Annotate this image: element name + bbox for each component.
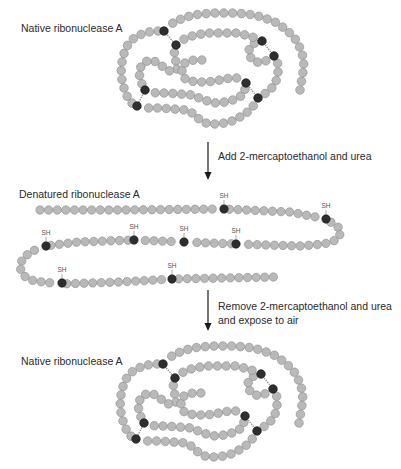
amino-acid-bead — [177, 90, 186, 99]
amino-acid-bead — [255, 12, 264, 21]
amino-acid-bead — [245, 386, 254, 395]
amino-acid-bead — [188, 410, 197, 419]
amino-acid-bead — [139, 206, 147, 214]
amino-acid-bead — [189, 77, 198, 86]
step1-label: Add 2-mercaptoethanol and urea — [218, 150, 372, 163]
amino-acid-bead — [117, 66, 126, 75]
amino-acid-bead — [106, 278, 114, 286]
amino-acid-bead — [209, 453, 218, 462]
amino-acid-bead — [211, 99, 220, 108]
amino-acid-bead — [159, 422, 168, 431]
amino-acid-bead — [198, 56, 207, 65]
amino-acid-bead — [285, 208, 293, 216]
amino-acid-bead — [120, 49, 129, 58]
amino-acid-bead — [219, 239, 227, 247]
amino-acid-bead — [137, 63, 146, 72]
amino-acid-bead — [274, 68, 283, 77]
amino-acid-bead — [228, 96, 237, 105]
amino-acid-bead — [267, 417, 276, 426]
amino-acid-bead — [201, 452, 210, 461]
amino-acid-bead — [201, 239, 209, 247]
amino-acid-bead — [148, 205, 156, 213]
amino-acid-bead — [179, 439, 188, 448]
amino-acid-bead — [167, 352, 176, 361]
amino-acid-bead — [191, 205, 199, 213]
sh-group-label: SH — [179, 225, 188, 232]
amino-acid-bead — [214, 29, 223, 38]
amino-acid-bead — [135, 71, 144, 80]
cysteine-bead — [322, 215, 330, 223]
amino-acid-bead — [227, 450, 236, 459]
amino-acid-bead — [21, 272, 29, 280]
amino-acid-bead — [134, 404, 143, 413]
amino-acid-bead — [272, 76, 281, 85]
amino-acid-bead — [194, 93, 203, 102]
amino-acid-bead — [176, 423, 185, 432]
amino-acid-bead — [150, 390, 159, 399]
amino-acid-bead — [249, 33, 258, 42]
amino-acid-bead — [296, 242, 304, 250]
amino-acid-bead — [170, 438, 179, 447]
arrow-down-icon — [205, 323, 212, 331]
amino-acid-bead — [235, 446, 244, 455]
amino-acid-bead — [202, 119, 211, 128]
amino-acid-bead — [295, 43, 304, 52]
amino-acid-bead — [279, 241, 287, 249]
amino-acid-bead — [220, 9, 229, 18]
amino-acid-bead — [204, 362, 213, 371]
amino-acid-bead — [182, 205, 190, 213]
amino-acid-bead — [242, 206, 250, 214]
amino-acid-bead — [196, 30, 205, 39]
amino-acid-bead — [224, 74, 233, 83]
amino-acid-bead — [239, 364, 248, 373]
amino-acid-bead — [131, 277, 139, 285]
amino-acid-bead — [311, 213, 319, 221]
amino-acid-bead — [248, 435, 257, 444]
amino-acid-bead — [296, 410, 305, 419]
amino-acid-bead — [219, 431, 228, 440]
cysteine-bead — [258, 37, 267, 46]
amino-acid-bead — [243, 273, 251, 281]
amino-acid-bead — [210, 120, 219, 129]
amino-acid-bead — [80, 279, 88, 287]
amino-acid-bead — [151, 57, 160, 66]
amino-acid-bead — [181, 59, 190, 68]
amino-acid-bead — [180, 392, 189, 401]
amino-acid-bead — [137, 30, 146, 39]
amino-acid-bead — [185, 424, 194, 433]
amino-acid-bead — [185, 12, 194, 21]
amino-acid-bead — [244, 240, 252, 248]
amino-acid-bead — [36, 206, 44, 214]
cysteine-bead — [140, 419, 149, 428]
amino-acid-bead — [268, 207, 276, 215]
amino-acid-bead — [322, 239, 330, 247]
amino-acid-bead — [254, 345, 263, 354]
amino-acid-bead — [88, 279, 96, 287]
cysteine-bead — [253, 427, 262, 436]
amino-acid-bead — [218, 274, 226, 282]
amino-acid-bead — [62, 206, 70, 214]
amino-acid-bead — [18, 257, 26, 265]
sh-group-label: SH — [219, 192, 228, 199]
cysteine-bead — [220, 205, 228, 213]
amino-acid-bead — [252, 273, 260, 281]
amino-acid-bead — [188, 389, 197, 398]
cysteine-bead — [130, 236, 138, 244]
amino-acid-bead — [131, 206, 139, 214]
amino-acid-bead — [298, 51, 307, 60]
amino-acid-bead — [120, 84, 129, 93]
sh-group-label: SH — [321, 202, 330, 209]
amino-acid-bead — [116, 399, 125, 408]
amino-acid-bead — [299, 68, 308, 77]
amino-acid-bead — [298, 393, 307, 402]
amino-acid-bead — [298, 401, 307, 410]
amino-acid-bead — [117, 391, 126, 400]
amino-acid-bead — [79, 206, 87, 214]
amino-acid-bead — [210, 432, 219, 441]
amino-acid-bead — [197, 78, 206, 87]
amino-acid-bead — [236, 113, 245, 122]
amino-acid-bead — [262, 348, 271, 357]
cysteine-bead — [141, 86, 150, 95]
amino-acid-bead — [174, 205, 182, 213]
amino-acid-bead — [105, 206, 113, 214]
